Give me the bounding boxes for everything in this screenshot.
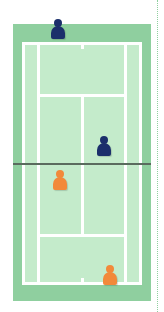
net [13, 163, 151, 165]
center-mark-bottom [81, 278, 84, 285]
player-top-2-icon [97, 136, 111, 156]
center-mark-top [81, 42, 84, 49]
dotted-divider [157, 0, 158, 312]
center-service-line [81, 94, 84, 237]
player-top-1-icon [51, 19, 65, 39]
player-bottom-2-icon [103, 265, 117, 285]
player-bottom-1-icon [53, 170, 67, 190]
